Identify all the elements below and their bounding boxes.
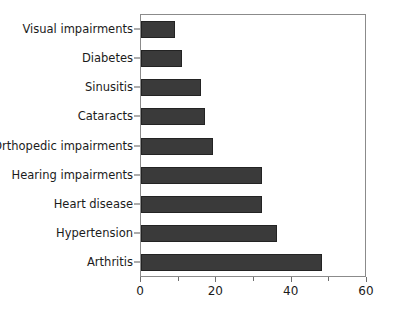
- plot-area: [140, 14, 366, 277]
- x-axis-tick-label: 60: [358, 284, 373, 298]
- y-axis-tick-mark: [134, 28, 140, 29]
- bar: [141, 50, 182, 67]
- x-axis-tick-label: 0: [136, 284, 144, 298]
- bar: [141, 138, 213, 155]
- bar-chart-figure: Visual impairmentsDiabetesSinusitisCatar…: [0, 0, 393, 309]
- x-axis-minor-tick-mark: [253, 277, 254, 281]
- y-axis-tick-label: Hearing impairments: [12, 169, 133, 181]
- x-axis-tick-label: 40: [283, 284, 298, 298]
- y-axis-tick-mark: [134, 233, 140, 234]
- y-axis-tick-label: Arthritis: [87, 256, 133, 268]
- bar-row: [141, 108, 365, 125]
- x-axis-tick-mark: [366, 277, 367, 282]
- x-axis-minor-tick-mark: [178, 277, 179, 281]
- y-axis-category-labels: Visual impairmentsDiabetesSinusitisCatar…: [0, 0, 133, 309]
- bar: [141, 254, 322, 271]
- x-axis-tick-label: 20: [208, 284, 223, 298]
- bar: [141, 196, 262, 213]
- y-axis-tick-label: Hypertension: [56, 227, 133, 239]
- bar: [141, 79, 201, 96]
- bar-row: [141, 225, 365, 242]
- y-axis-tick-mark: [134, 174, 140, 175]
- x-axis-tick-mark: [215, 277, 216, 282]
- y-axis-tick-mark: [134, 57, 140, 58]
- x-axis-minor-tick-mark: [328, 277, 329, 281]
- bar: [141, 108, 205, 125]
- bar-row: [141, 79, 365, 96]
- bar-row: [141, 167, 365, 184]
- y-axis-tick-mark: [134, 145, 140, 146]
- y-axis-tick-label: Visual impairments: [22, 23, 133, 35]
- bar: [141, 21, 175, 38]
- x-axis-tick-mark: [140, 277, 141, 282]
- bar-row: [141, 196, 365, 213]
- y-axis-tick-mark: [134, 116, 140, 117]
- bar-row: [141, 21, 365, 38]
- bar-row: [141, 50, 365, 67]
- bar-row: [141, 138, 365, 155]
- y-axis-tick-mark: [134, 203, 140, 204]
- y-axis-tick-label: Diabetes: [82, 52, 133, 64]
- x-axis-tick-mark: [291, 277, 292, 282]
- y-axis-tick-label: Heart disease: [54, 198, 133, 210]
- bar: [141, 225, 277, 242]
- y-axis-tick-mark: [134, 87, 140, 88]
- y-axis-tick-mark: [134, 262, 140, 263]
- bar: [141, 167, 262, 184]
- y-axis-tick-label: Sinusitis: [85, 81, 133, 93]
- y-axis-tick-label: Cataracts: [78, 110, 133, 122]
- bar-row: [141, 254, 365, 271]
- y-axis-tick-label: Orthopedic impairments: [0, 140, 133, 152]
